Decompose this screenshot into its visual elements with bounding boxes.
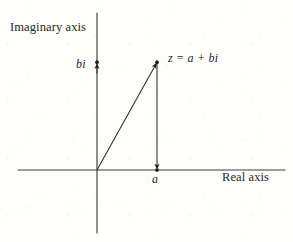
plot-canvas — [0, 0, 293, 242]
real-axis-label: Real axis — [222, 171, 269, 184]
imaginary-axis-label: Imaginary axis — [10, 21, 86, 34]
imaginary-tick-label-bi: bi — [76, 58, 86, 70]
complex-plane-figure: Imaginary axis Real axis z = a + bi bi a — [0, 0, 293, 242]
point-marker-bi — [95, 60, 99, 64]
point-marker-z — [155, 60, 159, 64]
vector-to-z-line — [97, 66, 155, 171]
point-z-label: z = a + bi — [168, 52, 218, 64]
real-tick-label-a: a — [152, 173, 158, 185]
